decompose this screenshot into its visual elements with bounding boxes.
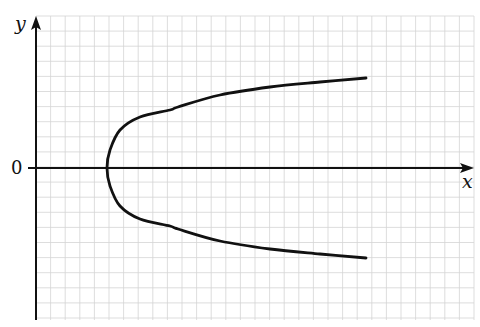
x-axis-label: x bbox=[462, 172, 473, 191]
graph bbox=[0, 0, 480, 327]
y-axis-label: y bbox=[15, 14, 26, 33]
origin-label: 0 bbox=[11, 159, 22, 177]
